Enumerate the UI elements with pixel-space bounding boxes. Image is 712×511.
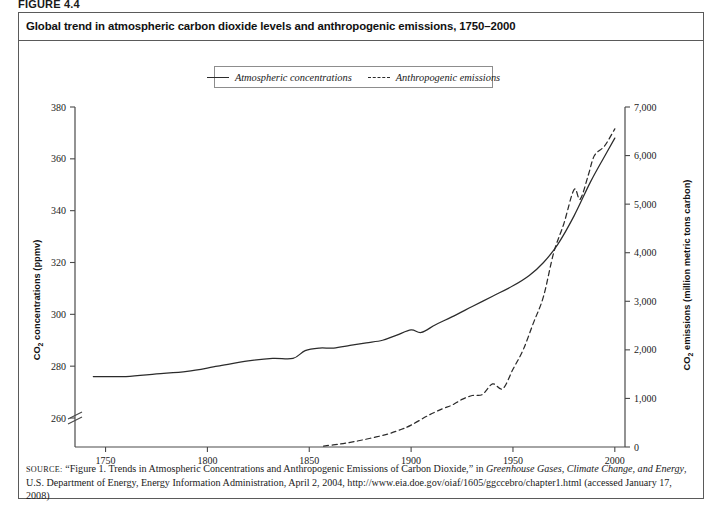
left-tick-label: 300 [51,309,66,320]
left-tick-label: 340 [51,205,66,216]
right-tick-label: 7,000 [634,102,657,113]
series-layer [93,129,614,446]
right-tick-label: 2,000 [634,344,657,355]
left-axis-title: CO2 concentrations (ppmv) [32,240,44,361]
source-note: SOURCE: “Figure 1. Trends in Atmospheric… [26,462,696,502]
axes-group [68,107,625,447]
left-tick-label: 360 [51,153,66,164]
svg-text:CO2 concentrations (ppmv): CO2 concentrations (ppmv) [32,240,44,361]
right-axis-ticks: 01,0002,0003,0004,0005,0006,0007,000 [625,102,657,453]
left-tick-label: 280 [51,361,66,372]
source-prefix: SOURCE: [26,465,63,474]
right-tick-label: 6,000 [634,150,657,161]
chart-plot: 260280300320340360380 01,0002,0003,0004,… [0,0,712,511]
series-line-emissions [324,129,615,446]
series-line-concentrations [93,138,614,377]
svg-text:CO2 emissions (million metric: CO2 emissions (million metric tons carbo… [682,180,694,371]
left-tick-label: 260 [51,413,66,424]
source-line-1: “Figure 1. Trends in Atmospheric Concent… [63,463,486,474]
source-italic-title: Greenhouse Gases, Climate Change, and En… [486,463,684,474]
figure-root: FIGURE 4.4 Global trend in atmospheric c… [0,0,712,511]
left-axis-ticks: 260280300320340360380 [51,102,75,424]
right-tick-label: 3,000 [634,296,657,307]
right-tick-label: 4,000 [634,247,657,258]
left-tick-label: 380 [51,102,66,113]
right-tick-label: 5,000 [634,199,657,210]
left-tick-label: 320 [51,257,66,268]
right-tick-label: 1,000 [634,393,657,404]
right-tick-label: 0 [634,442,639,453]
right-axis-title: CO2 emissions (million metric tons carbo… [682,180,694,371]
